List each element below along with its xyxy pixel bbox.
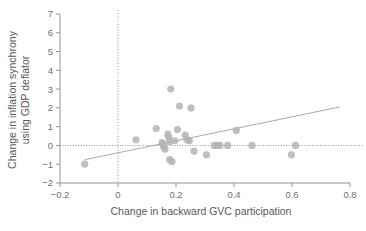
y-axis-title-line-2: using GDP deflator bbox=[19, 55, 31, 144]
data-point bbox=[161, 146, 168, 153]
data-point bbox=[167, 86, 174, 93]
x-tick-label: −0.2 bbox=[51, 189, 70, 200]
data-point bbox=[132, 136, 139, 143]
x-tick-label: 0.6 bbox=[285, 189, 298, 200]
data-point bbox=[288, 151, 295, 158]
data-point bbox=[81, 161, 88, 168]
x-tick-label: 0.2 bbox=[169, 189, 182, 200]
data-point bbox=[190, 147, 197, 154]
data-point bbox=[186, 137, 193, 144]
x-axis-ticks: −0.200.20.40.60.8 bbox=[51, 183, 357, 200]
trendline-path bbox=[85, 107, 340, 160]
reference-lines bbox=[60, 10, 364, 183]
y-tick-label: 4 bbox=[48, 65, 53, 76]
y-tick-label: 3 bbox=[48, 84, 53, 95]
data-point bbox=[171, 137, 178, 144]
y-tick-label: −1 bbox=[42, 159, 53, 170]
y-tick-label: 1 bbox=[48, 121, 53, 132]
y-tick-label: 0 bbox=[48, 140, 53, 151]
data-point bbox=[248, 142, 255, 149]
x-tick-label: 0.4 bbox=[227, 189, 240, 200]
data-point bbox=[153, 125, 160, 132]
data-point bbox=[168, 158, 175, 165]
x-tick-label: 0 bbox=[115, 189, 120, 200]
x-tick-label: 0.8 bbox=[343, 189, 356, 200]
chart-canvas: −0.200.20.40.60.8 −2−101234567 Change in… bbox=[0, 0, 366, 231]
x-axis-title: Change in backward GVC participation bbox=[111, 205, 292, 217]
scatter-chart: −0.200.20.40.60.8 −2−101234567 Change in… bbox=[0, 0, 366, 231]
y-axis-ticks: −2−101234567 bbox=[42, 8, 60, 188]
trendline bbox=[85, 107, 340, 160]
data-point bbox=[203, 151, 210, 158]
y-tick-label: 6 bbox=[48, 27, 53, 38]
data-point bbox=[187, 104, 194, 111]
data-point bbox=[292, 142, 299, 149]
y-axis-title-line-1: Change in inflation synchrony bbox=[6, 30, 18, 169]
y-tick-label: 2 bbox=[48, 102, 53, 113]
data-point bbox=[216, 142, 223, 149]
data-points bbox=[81, 86, 299, 168]
data-point bbox=[174, 126, 181, 133]
data-point bbox=[233, 127, 240, 134]
y-tick-label: 7 bbox=[48, 8, 53, 19]
y-tick-label: 5 bbox=[48, 46, 53, 57]
data-point bbox=[224, 142, 231, 149]
data-point bbox=[176, 102, 183, 109]
y-tick-label: −2 bbox=[42, 177, 53, 188]
